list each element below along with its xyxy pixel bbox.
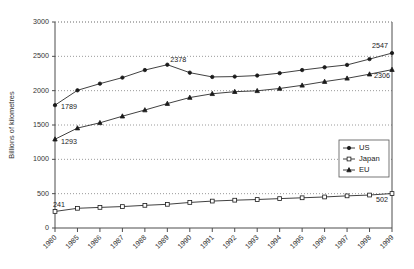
- data-point: [278, 197, 282, 201]
- xtick-label: 1986: [86, 233, 104, 251]
- data-point: [323, 195, 327, 199]
- ytick-label: 3000: [33, 17, 49, 26]
- series-line-eu: [55, 70, 392, 140]
- legend-item-eu[interactable]: EU: [359, 165, 370, 174]
- data-point: [300, 196, 304, 200]
- data-point: [256, 74, 259, 77]
- data-point: [345, 63, 348, 66]
- legend-item-japan[interactable]: Japan: [359, 154, 380, 163]
- data-point: [233, 198, 237, 202]
- data-point: [390, 51, 393, 54]
- data-point: [76, 89, 79, 92]
- xtick-label: 1995: [288, 233, 306, 251]
- data-point: [98, 206, 102, 210]
- data-point: [322, 79, 326, 83]
- data-point: [368, 57, 371, 60]
- xtick-label: 1999: [378, 233, 396, 251]
- data-point: [255, 88, 259, 92]
- data-point: [53, 137, 57, 141]
- line-chart: 0500100015002000250030001980198519861987…: [0, 0, 414, 269]
- xtick-label: 1992: [220, 233, 238, 251]
- xtick-label: 1997: [333, 233, 351, 251]
- data-point: [211, 75, 214, 78]
- data-point: [323, 66, 326, 69]
- xtick-label: 1980: [41, 233, 59, 251]
- xtick-label: 1989: [153, 233, 171, 251]
- data-point: [143, 108, 147, 112]
- data-point: [278, 71, 281, 74]
- data-point: [300, 83, 304, 87]
- data-point: [347, 146, 350, 149]
- xtick-label: 1985: [63, 233, 81, 251]
- data-point: [53, 210, 57, 214]
- y-axis-title: Billions of kilometres: [7, 91, 16, 159]
- data-point: [277, 86, 281, 90]
- data-point: [165, 202, 169, 206]
- data-point: [210, 199, 214, 203]
- data-point: [98, 82, 101, 85]
- data-point: [233, 89, 237, 93]
- data-point: [300, 68, 303, 71]
- data-point: [367, 72, 371, 76]
- xtick-label: 1996: [310, 233, 328, 251]
- data-point: [255, 198, 259, 202]
- data-point: [143, 68, 146, 71]
- ytick-label: 0: [45, 223, 49, 232]
- data-point: [121, 76, 124, 79]
- xtick-label: 1991: [198, 233, 216, 251]
- data-point: [166, 63, 169, 66]
- data-point: [368, 193, 372, 197]
- point-label: 241: [53, 200, 65, 209]
- point-label: 1789: [61, 102, 77, 111]
- data-point: [210, 91, 214, 95]
- data-point: [143, 203, 147, 207]
- xtick-label: 1988: [131, 233, 149, 251]
- data-point: [120, 114, 124, 118]
- data-point: [165, 101, 169, 105]
- xtick-label: 1998: [355, 233, 373, 251]
- point-label: 1293: [61, 137, 77, 146]
- data-point: [75, 126, 79, 130]
- data-point: [76, 206, 80, 210]
- data-point: [345, 76, 349, 80]
- point-label: 2547: [372, 41, 388, 50]
- xtick-label: 1993: [243, 233, 261, 251]
- ytick-label: 1500: [33, 120, 49, 129]
- legend-item-us[interactable]: US: [359, 143, 370, 152]
- data-point: [390, 67, 394, 71]
- ytick-label: 2000: [33, 86, 49, 95]
- ytick-label: 1000: [33, 154, 49, 163]
- data-point: [121, 205, 125, 209]
- ytick-label: 500: [37, 189, 49, 198]
- ytick-label: 2500: [33, 51, 49, 60]
- data-point: [233, 75, 236, 78]
- data-point: [188, 95, 192, 99]
- xtick-label: 1990: [176, 233, 194, 251]
- point-label: 2306: [374, 71, 390, 80]
- point-label: 502: [376, 195, 388, 204]
- data-point: [188, 201, 192, 205]
- chart-container: 0500100015002000250030001980198519861987…: [0, 0, 414, 269]
- data-point: [345, 194, 349, 198]
- xtick-label: 1987: [108, 233, 126, 251]
- data-point: [347, 157, 351, 161]
- series-line-japan: [55, 194, 392, 212]
- xtick-label: 1994: [265, 233, 283, 251]
- data-point: [53, 103, 56, 106]
- data-point: [188, 71, 191, 74]
- point-label: 2378: [170, 55, 186, 64]
- data-point: [98, 120, 102, 124]
- data-point: [390, 192, 394, 196]
